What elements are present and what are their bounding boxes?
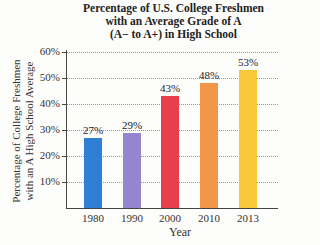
x-tick-label: 2013: [228, 212, 268, 224]
bar-value-label: 43%: [150, 82, 190, 94]
bar-value-label: 53%: [228, 56, 268, 68]
y-tick-label: 20%: [20, 149, 60, 161]
bar-2010: [200, 83, 218, 208]
y-tick-label: 50%: [20, 71, 60, 83]
bar-1990: [123, 133, 141, 208]
bar-value-label: 27%: [73, 124, 113, 136]
x-tick-label: 1990: [112, 212, 152, 224]
bar-1980: [84, 138, 102, 208]
chart-title: Percentage of U.S. College Freshmen with…: [60, 2, 287, 41]
bar-value-label: 29%: [112, 119, 152, 131]
y-axis-line: [66, 50, 67, 209]
x-tick-label: 1980: [73, 212, 113, 224]
x-axis-label: Year: [150, 225, 210, 240]
bar-value-label: 48%: [189, 69, 229, 81]
title-line-1: Percentage of U.S. College Freshmen: [60, 2, 287, 15]
y-tick-label: 40%: [20, 97, 60, 109]
x-axis-line: [66, 208, 278, 209]
bar-2013: [239, 70, 257, 208]
x-tick-label: 2010: [189, 212, 229, 224]
x-tick-label: 2000: [150, 212, 190, 224]
title-line-2: with an Average Grade of A: [60, 15, 287, 28]
y-tick-label: 10%: [20, 175, 60, 187]
y-tick-label: 60%: [20, 45, 60, 57]
bar-2000: [161, 96, 179, 208]
gridline: [66, 52, 278, 53]
y-tick-label: 30%: [20, 123, 60, 135]
title-line-3: (A− to A+) in High School: [60, 28, 287, 41]
